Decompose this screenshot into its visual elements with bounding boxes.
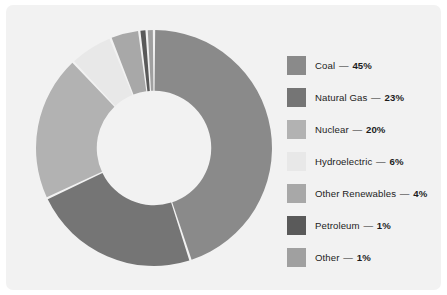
legend-label-text: Coal xyxy=(315,60,335,71)
legend-swatch xyxy=(287,152,306,171)
legend-label: Petroleum — 1% xyxy=(315,220,391,231)
legend-swatch xyxy=(287,216,306,235)
legend-label-text: Other Renewables xyxy=(315,188,396,199)
legend-label-text: Natural Gas xyxy=(315,92,367,103)
legend-label-text: Petroleum xyxy=(315,220,360,231)
legend-percent: 23% xyxy=(385,92,405,103)
legend-item-other[interactable]: Other — 1% xyxy=(287,241,447,273)
legend-percent: 20% xyxy=(366,124,386,135)
legend-separator: — xyxy=(340,252,357,263)
donut-chart-svg xyxy=(30,25,280,273)
legend-separator: — xyxy=(349,124,366,135)
legend-item-petroleum[interactable]: Petroleum — 1% xyxy=(287,209,447,241)
legend-label: Other — 1% xyxy=(315,252,371,263)
legend-swatch xyxy=(287,88,306,107)
legend-separator: — xyxy=(360,220,377,231)
legend-item-nuclear[interactable]: Nuclear — 20% xyxy=(287,113,447,145)
donut-slice-group xyxy=(36,30,272,266)
legend-label-text: Other xyxy=(315,252,340,263)
legend-separator: — xyxy=(367,92,384,103)
chart-panel: Coal — 45%Natural Gas — 23%Nuclear — 20%… xyxy=(6,5,441,290)
legend-label-text: Hydroelectric xyxy=(315,156,372,167)
legend-label: Nuclear — 20% xyxy=(315,124,386,135)
legend-percent: 1% xyxy=(377,220,391,231)
legend-label: Other Renewables — 4% xyxy=(315,188,427,199)
legend-separator: — xyxy=(372,156,389,167)
legend-label: Natural Gas — 23% xyxy=(315,92,404,103)
legend-percent: 6% xyxy=(390,156,404,167)
legend-swatch xyxy=(287,184,306,203)
legend-separator: — xyxy=(335,60,352,71)
legend-percent: 45% xyxy=(352,60,372,71)
legend-item-coal[interactable]: Coal — 45% xyxy=(287,49,447,81)
legend-swatch xyxy=(287,120,306,139)
legend-percent: 4% xyxy=(413,188,427,199)
legend-separator: — xyxy=(396,188,413,199)
legend-swatch xyxy=(287,56,306,75)
legend-item-hydroelectric[interactable]: Hydroelectric — 6% xyxy=(287,145,447,177)
chart-legend: Coal — 45%Natural Gas — 23%Nuclear — 20%… xyxy=(287,49,447,273)
legend-item-natural-gas[interactable]: Natural Gas — 23% xyxy=(287,81,447,113)
legend-label-text: Nuclear xyxy=(315,124,349,135)
legend-label: Hydroelectric — 6% xyxy=(315,156,404,167)
legend-item-other-renewables[interactable]: Other Renewables — 4% xyxy=(287,177,447,209)
legend-percent: 1% xyxy=(357,252,371,263)
legend-label: Coal — 45% xyxy=(315,60,372,71)
donut-chart xyxy=(30,25,280,273)
legend-swatch xyxy=(287,248,306,267)
